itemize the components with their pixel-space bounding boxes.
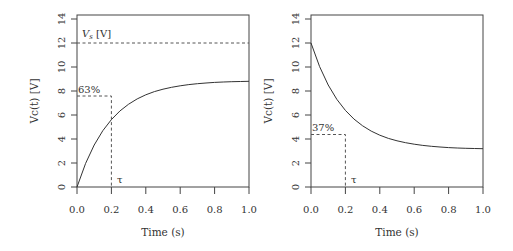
right-y-axis-label: Vc(t) [V] [262, 79, 274, 125]
ytick-label: 10 [290, 61, 301, 74]
xtick-label: 0.6 [172, 204, 188, 215]
figure: 0 2 4 6 8 10 12 14 0.0 0.2 0.4 0.6 0.8 1… [0, 0, 513, 251]
left-y-tick-labels: 0 2 4 6 8 10 12 14 [56, 13, 67, 191]
left-y-axis-label: Vc(t) [V] [28, 79, 40, 125]
ytick-label: 4 [56, 136, 67, 142]
tau-37-guide [311, 135, 345, 188]
tau-label: τ [117, 174, 123, 185]
left-x-tick-labels: 0.0 0.2 0.4 0.6 0.8 1.0 [69, 204, 257, 215]
tau-label: τ [351, 174, 357, 185]
xtick-label: 0.0 [69, 204, 85, 215]
ytick-label: 12 [56, 37, 67, 50]
pct-63-label: 63% [78, 84, 100, 95]
vs-label: Vs [V] [82, 28, 111, 41]
xtick-label: 0.2 [337, 204, 353, 215]
ytick-label: 8 [56, 88, 67, 94]
xtick-label: 1.0 [241, 204, 257, 215]
ytick-label: 14 [56, 13, 67, 26]
right-plot-frame [311, 15, 483, 187]
charging-curve [77, 81, 249, 187]
ytick-label: 0 [290, 184, 301, 190]
xtick-label: 0.2 [103, 204, 119, 215]
xtick-label: 1.0 [475, 204, 491, 215]
right-x-axis-label: Time (s) [375, 226, 418, 238]
xtick-label: 0.4 [372, 204, 388, 215]
ytick-label: 2 [56, 160, 67, 166]
ytick-label: 8 [290, 88, 301, 94]
left-plot-frame [77, 15, 249, 187]
left-x-axis-label: Time (s) [141, 226, 184, 238]
ytick-label: 0 [56, 184, 67, 190]
left-plot: 0 2 4 6 8 10 12 14 0.0 0.2 0.4 0.6 0.8 1… [28, 13, 257, 238]
ytick-label: 10 [56, 61, 67, 74]
right-x-tick-labels: 0.0 0.2 0.4 0.6 0.8 1.0 [303, 204, 491, 215]
ytick-label: 6 [290, 112, 301, 118]
ytick-label: 4 [290, 136, 301, 142]
ytick-label: 2 [290, 160, 301, 166]
left-y-ticks [71, 19, 77, 187]
xtick-label: 0.4 [138, 204, 154, 215]
right-plot: 0 2 4 6 8 10 12 14 0.0 0.2 0.4 0.6 0.8 1… [262, 13, 491, 238]
right-x-ticks [311, 187, 483, 194]
pct-37-label: 37% [312, 122, 334, 133]
ytick-label: 6 [56, 112, 67, 118]
xtick-label: 0.8 [441, 204, 457, 215]
ytick-label: 12 [290, 37, 301, 50]
discharging-curve [311, 43, 483, 149]
xtick-label: 0.8 [207, 204, 223, 215]
right-y-ticks [305, 19, 311, 187]
right-y-tick-labels: 0 2 4 6 8 10 12 14 [290, 13, 301, 191]
left-x-ticks [77, 187, 249, 194]
xtick-label: 0.6 [406, 204, 422, 215]
xtick-label: 0.0 [303, 204, 319, 215]
ytick-label: 14 [290, 13, 301, 26]
